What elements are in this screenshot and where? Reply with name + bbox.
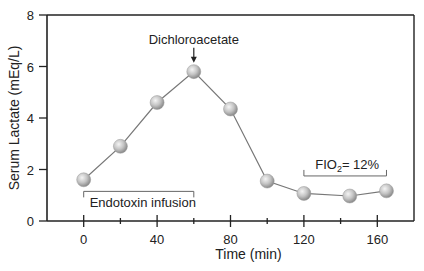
y-tick-label: 4 [27, 111, 34, 126]
y-tick-label: 0 [27, 214, 34, 229]
x-tick-label: 120 [293, 232, 315, 247]
y-axis-ticks: 02468 [27, 8, 47, 229]
data-point [224, 102, 238, 116]
y-axis-title: Serum Lactate (mEq/L) [6, 46, 22, 191]
x-axis-ticks: 04080120160 [80, 215, 388, 247]
y-tick-label: 6 [27, 60, 34, 75]
x-tick-label: 0 [80, 232, 87, 247]
x-tick-label: 40 [150, 232, 164, 247]
data-point [187, 65, 201, 79]
data-point [343, 189, 357, 203]
y-tick-label: 2 [27, 163, 34, 178]
series-line [84, 72, 387, 196]
dichloroacetate-arrow-head [191, 57, 197, 63]
x-tick-label: 160 [366, 232, 388, 247]
dichloroacetate-label: Dichloroacetate [149, 32, 239, 47]
fio2-label: FIO2= 12% [315, 157, 379, 174]
x-axis-title: Time (min) [215, 246, 281, 262]
data-point [113, 139, 127, 153]
data-point [379, 184, 393, 198]
endotoxin-infusion-label: Endotoxin infusion [90, 195, 196, 210]
chart: 04080120160 02468 Time (min) Serum Lacta… [0, 0, 424, 271]
data-series [77, 65, 394, 203]
x-tick-label: 80 [223, 232, 237, 247]
data-point [297, 186, 311, 200]
annotations: DichloroacetateEndotoxin infusionFIO2= 1… [84, 32, 387, 211]
y-tick-label: 8 [27, 8, 34, 23]
data-point [77, 173, 91, 187]
data-point [150, 96, 164, 110]
data-point [260, 174, 274, 188]
